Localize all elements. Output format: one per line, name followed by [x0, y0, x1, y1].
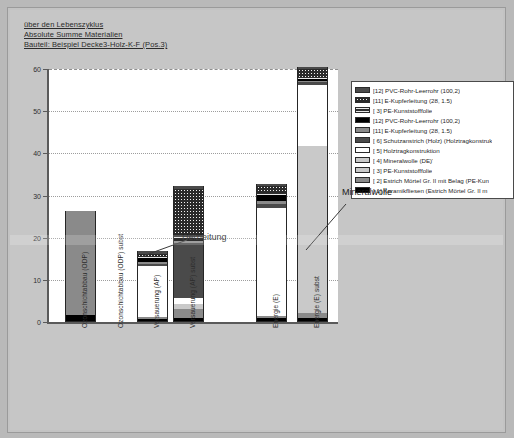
legend-item: [11] E-Kupferleitung (28, 1.5)	[355, 125, 510, 135]
legend-label: [ 3] PE-Kunststofffolie	[373, 167, 432, 174]
leader-line-mineralwolle	[302, 202, 350, 254]
legend-swatch-icon	[355, 87, 370, 93]
legend-swatch-icon	[355, 97, 370, 103]
legend-label: [12] PVC-Rohr-Leerrohr (100,2)	[373, 87, 460, 94]
legend-item: [ 4] Mineralwolle (DE)'	[355, 155, 510, 165]
legend-label: [ 6] Schutzanstrich (Holz) (Holztragkons…	[373, 137, 492, 144]
legend-swatch-icon	[355, 147, 370, 153]
legend-label: [ 4] Mineralwolle (DE)'	[373, 157, 433, 164]
legend-label: [ 5] Holztragkonstruktion	[373, 147, 440, 154]
x-tick-label: Versauerung (AP) subst	[189, 257, 196, 328]
chart-legend: [12] PVC-Rohr-Leerrohr (100,2)[11] E-Kup…	[351, 81, 514, 199]
legend-swatch-icon	[355, 157, 370, 163]
legend-item: [12] PVC-Rohr-Leerrohr (100,2)	[355, 85, 510, 95]
legend-swatch-icon	[355, 107, 370, 113]
legend-item: [11] E-Kupferleitung (28, 1.5)	[355, 95, 510, 105]
legend-label: [11] E-Kupferleitung (28, 1.5)	[373, 127, 452, 134]
x-tick-label: Energie (E)	[272, 294, 279, 328]
page-inner: über den Lebenszyklus Absolute Summe Mat…	[10, 10, 503, 430]
legend-label: [12] PVC-Rohr-Leerrohr (100,2)	[373, 117, 460, 124]
leader-line-heizleitung	[141, 238, 189, 260]
legend-item: [ 5] Holztragkonstruktion	[355, 145, 510, 155]
legend-label: [ 2] Estrich Mörtel Gr. II mit Belag (PE…	[373, 177, 489, 184]
legend-label: [11] E-Kupferleitung (28, 1.5)	[373, 97, 452, 104]
legend-item: [12] PVC-Rohr-Leerrohr (100,2)	[355, 115, 510, 125]
page-frame: über den Lebenszyklus Absolute Summe Mat…	[7, 7, 506, 433]
legend-swatch-icon	[355, 117, 370, 123]
legend-label: [ 3] PE-Kunststofffolie	[373, 107, 432, 114]
x-tick-label: Ozonschichtabbau (ODP)	[81, 252, 88, 328]
legend-swatch-icon	[355, 177, 370, 183]
x-tick-label: Energie (E) subst	[313, 276, 320, 328]
legend-item: [ 3] PE-Kunststofffolie	[355, 105, 510, 115]
legend-swatch-icon	[355, 167, 370, 173]
legend-item: [ 2] Estrich Mörtel Gr. II mit Belag (PE…	[355, 175, 510, 185]
legend-item: [ 6] Schutzanstrich (Holz) (Holztragkons…	[355, 135, 510, 145]
x-axis: Ozonschichtabbau (ODP)Ozonschichtabbau (…	[10, 10, 503, 430]
legend-item: [ 3] PE-Kunststofffolie	[355, 165, 510, 175]
annotation-mineralwolle: Mineralwolle	[342, 187, 392, 197]
x-tick-label: Ozonschichtabbau (ODP) subst	[117, 234, 124, 328]
legend-swatch-icon	[355, 127, 370, 133]
x-tick-label: Versauerung (AP)	[153, 275, 160, 328]
legend-swatch-icon	[355, 137, 370, 143]
